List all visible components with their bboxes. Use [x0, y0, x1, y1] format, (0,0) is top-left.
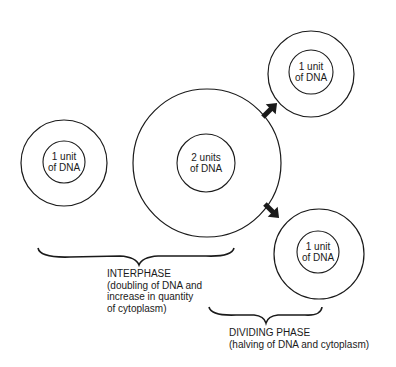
- label-line: 1 unit: [297, 241, 339, 252]
- daughter-top-label: 1 unit of DNA: [290, 61, 332, 83]
- caption-title: INTERPHASE: [107, 268, 202, 280]
- dividing-caption: DIVIDING PHASE (halving of DNA and cytop…: [229, 327, 369, 350]
- label-line: 1 unit: [44, 151, 84, 162]
- caption-line: (doubling of DNA and: [107, 280, 202, 292]
- caption-title: DIVIDING PHASE: [229, 327, 369, 339]
- label-line: of DNA: [297, 252, 339, 263]
- daughter-bottom-label: 1 unit of DNA: [297, 241, 339, 263]
- label-line: of DNA: [290, 72, 332, 83]
- dividing-brace: [209, 307, 322, 323]
- caption-line: increase in quantity: [107, 291, 202, 303]
- grown-cell-label: 2 units of DNA: [183, 152, 229, 174]
- interphase-caption: INTERPHASE (doubling of DNA and increase…: [107, 268, 202, 314]
- label-line: of DNA: [183, 163, 229, 174]
- interphase-cell-label: 1 unit of DNA: [44, 151, 84, 173]
- label-line: 2 units: [183, 152, 229, 163]
- label-line: of DNA: [44, 162, 84, 173]
- caption-line: (halving of DNA and cytoplasm): [229, 339, 369, 351]
- caption-line: of cytoplasm): [107, 303, 202, 315]
- label-line: 1 unit: [290, 61, 332, 72]
- interphase-brace: [38, 248, 234, 265]
